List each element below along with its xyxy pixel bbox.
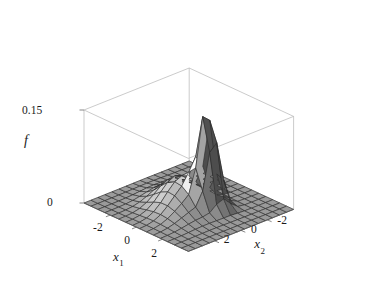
x2-tick-label-neg2: -2 [277,215,287,227]
z-tick-label-0: 0 [47,197,53,209]
surface-plot-figure: 0.15 0 f -2 0 2 x1 2 0 -2 x2 [0,0,376,301]
x2-axis-label-subscript: 2 [260,246,265,256]
x1-tick-label-2: 2 [151,248,157,260]
z-axis-label: f [24,134,28,148]
x1-tick-label-0: 0 [124,235,130,247]
z-tick-label-0-15: 0.15 [22,105,42,117]
x1-axis-label-subscript: 1 [119,258,124,268]
x2-tick-label-0: 0 [251,224,257,236]
x1-tick-label-neg2: -2 [93,222,103,234]
x2-tick-label-2: 2 [224,234,230,246]
x2-axis-label: x2 [254,237,264,254]
x1-axis-label: x1 [113,250,123,267]
x1-axis-label-letter: x [113,249,119,264]
surface-plot-canvas [0,0,376,301]
surface-mesh [84,117,294,252]
